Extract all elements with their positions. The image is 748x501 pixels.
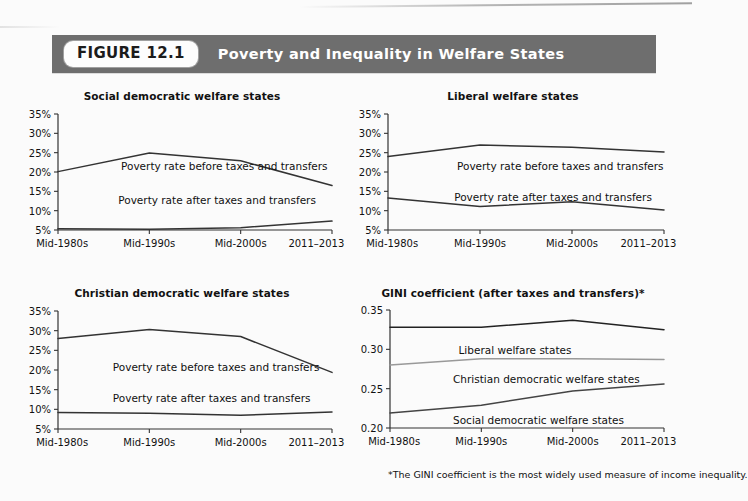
x-tick-label: Mid-1990s — [123, 238, 175, 249]
y-tick-label: 10% — [22, 404, 51, 415]
series-annotation: Poverty rate after taxes and transfers — [454, 191, 652, 203]
plot-area: 5%10%15%20%25%30%35%Mid-1980sMid-1990sMi… — [22, 303, 342, 455]
series-annotation: Social democratic welfare states — [453, 414, 624, 426]
y-tick-label: 25% — [22, 147, 51, 158]
y-tick-label: 15% — [352, 186, 381, 197]
x-tick-label: 2011–2013 — [620, 238, 676, 249]
y-tick-label: 35% — [352, 109, 381, 120]
chart-svg-liberal — [352, 106, 674, 256]
y-tick-label: 0.25 — [352, 383, 383, 394]
x-tick-label: Mid-1980s — [36, 437, 88, 448]
series-line-0 — [390, 320, 664, 329]
plot-area: 0.200.250.300.35Mid-1980sMid-1990sMid-20… — [352, 302, 674, 454]
x-tick-label: Mid-1980s — [36, 238, 88, 249]
chart-gini: GINI coefficient (after taxes and transf… — [352, 287, 674, 487]
y-tick-label: 20% — [22, 365, 51, 376]
series-line-0 — [388, 145, 664, 157]
series-annotation: Poverty rate before taxes and transfers — [457, 160, 664, 172]
chart-grid: Social democratic welfare states 5%10%15… — [0, 82, 692, 497]
series-annotation: Liberal welfare states — [459, 344, 572, 356]
y-tick-label: 30% — [22, 128, 51, 139]
y-tick-label: 5% — [22, 225, 51, 236]
series-line-2 — [390, 384, 664, 413]
chart-title: GINI coefficient (after taxes and transf… — [352, 287, 674, 300]
chart-liberal: Liberal welfare states 5%10%15%20%25%30%… — [352, 90, 674, 265]
y-tick-label: 0.30 — [352, 344, 383, 355]
x-tick-label: 2011–2013 — [288, 437, 344, 448]
series-annotation: Christian democratic welfare states — [453, 373, 640, 385]
chart-christian-democratic: Christian democratic welfare states 5%10… — [22, 287, 342, 465]
x-tick-label: Mid-2000s — [547, 436, 599, 447]
series-annotation: Poverty rate before taxes and transfers — [113, 361, 320, 373]
y-tick-label: 10% — [352, 205, 381, 216]
figure-number-badge: FIGURE 12.1 — [64, 41, 198, 67]
figure-header-band: FIGURE 12.1 Poverty and Inequality in We… — [52, 35, 656, 73]
y-tick-label: 0.20 — [352, 423, 383, 434]
x-tick-label: 2011–2013 — [620, 436, 676, 447]
x-tick-label: Mid-2000s — [215, 437, 267, 448]
series-line-1 — [390, 359, 664, 365]
x-tick-label: Mid-1990s — [454, 238, 506, 249]
scan-artifact-line — [300, 2, 692, 8]
chart-svg-christian-democratic — [22, 303, 342, 455]
series-annotation: Poverty rate after taxes and transfers — [118, 194, 316, 206]
y-tick-label: 25% — [352, 147, 381, 158]
y-tick-label: 20% — [22, 167, 51, 178]
chart-social-democratic: Social democratic welfare states 5%10%15… — [22, 90, 342, 265]
chart-title: Social democratic welfare states — [22, 90, 342, 103]
y-tick-label: 20% — [352, 167, 381, 178]
y-tick-label: 30% — [22, 325, 51, 336]
chart-title: Christian democratic welfare states — [22, 287, 342, 300]
x-tick-label: Mid-1980s — [368, 436, 420, 447]
plot-area: 5%10%15%20%25%30%35%Mid-1980sMid-1990sMi… — [352, 106, 674, 256]
figure-title: Poverty and Inequality in Welfare States — [218, 46, 565, 62]
series-annotation: Poverty rate after taxes and transfers — [113, 392, 311, 404]
y-tick-label: 10% — [22, 205, 51, 216]
y-tick-label: 0.35 — [352, 305, 383, 316]
plot-area: 5%10%15%20%25%30%35%Mid-1980sMid-1990sMi… — [22, 106, 342, 256]
y-tick-label: 5% — [22, 424, 51, 435]
gini-footnote: *The GINI coefficient is the most widely… — [388, 469, 748, 480]
x-tick-label: Mid-1990s — [455, 436, 507, 447]
x-tick-label: Mid-1980s — [366, 238, 418, 249]
x-tick-label: Mid-2000s — [546, 238, 598, 249]
series-line-1 — [58, 221, 332, 229]
chart-title: Liberal welfare states — [352, 90, 674, 103]
y-tick-label: 35% — [22, 109, 51, 120]
chart-svg-social-democratic — [22, 106, 342, 256]
series-line-1 — [58, 412, 332, 415]
y-tick-label: 15% — [22, 186, 51, 197]
series-annotation: Poverty rate before taxes and transfers — [121, 160, 328, 172]
y-tick-label: 35% — [22, 306, 51, 317]
y-tick-label: 5% — [352, 225, 381, 236]
x-tick-label: 2011–2013 — [288, 238, 344, 249]
y-tick-label: 15% — [22, 384, 51, 395]
y-tick-label: 25% — [22, 345, 51, 356]
scan-artifact-line-left — [0, 26, 60, 28]
y-tick-label: 30% — [352, 128, 381, 139]
x-tick-label: Mid-2000s — [215, 238, 267, 249]
x-tick-label: Mid-1990s — [123, 437, 175, 448]
